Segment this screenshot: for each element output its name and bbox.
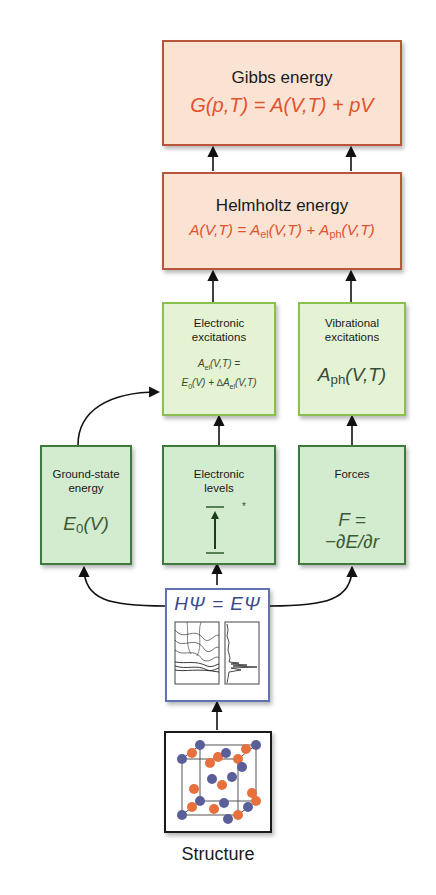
band-structure-and-dos-plot: [167, 620, 267, 690]
helmholtz-eq-el-subscript: el: [260, 228, 268, 240]
electronic-excitations-box: Electronic excitations Ael(V,T) = E0(V) …: [162, 302, 276, 416]
helmholtz-eq-part: (V,T) + A: [269, 221, 330, 238]
eq-subscript: ph: [331, 372, 346, 387]
eq-part: (V,T): [345, 364, 386, 385]
gibbs-energy-box: Gibbs energy G(p,T) = A(V,T) + pV: [162, 40, 402, 146]
electronic-excitations-equation: Ael(V,T) = E0(V) + ∆Ael(V,T): [164, 356, 274, 394]
vibrational-excitations-title-line2: excitations: [300, 330, 404, 344]
ground-state-title-line1: Ground-state: [42, 467, 130, 481]
helmholtz-eq-part: A(V,T) = A: [189, 221, 260, 238]
vibrational-excitations-equation: Aph(V,T): [300, 364, 404, 387]
ground-state-equation: E0(V): [42, 513, 130, 536]
ground-state-title: Ground-state energy: [42, 467, 130, 495]
band-structure-plot: [175, 622, 219, 684]
crystal-structure-box: [164, 731, 272, 833]
arrow-ground-state-to-electronic-excitations: [78, 392, 158, 445]
eq-part: (V) + ∆A: [192, 377, 230, 388]
ground-state-title-line2: energy: [42, 481, 130, 495]
arrow-schrodinger-to-forces: [270, 568, 352, 606]
helmholtz-eq-part: (V,T): [342, 221, 375, 238]
excited-marker: *: [242, 501, 246, 512]
gibbs-title: Gibbs energy: [164, 68, 400, 88]
helmholtz-eq-ph-subscript: ph: [329, 228, 341, 240]
forces-eq-line1: F =: [300, 509, 404, 531]
gibbs-equation: G(p,T) = A(V,T) + pV: [164, 94, 400, 117]
density-of-states-plot: [225, 622, 259, 684]
gibbs-equation-lhs: G(p,T): [190, 94, 248, 116]
forces-title: Forces: [300, 467, 404, 481]
eq-part: (V): [83, 513, 108, 534]
atoms: [177, 740, 261, 824]
arrow-schrodinger-to-ground-state: [84, 568, 165, 606]
helmholtz-energy-box: Helmholtz energy A(V,T) = Ael(V,T) + Aph…: [162, 172, 402, 270]
vibrational-excitations-title-line1: Vibrational: [300, 316, 404, 330]
eq-part: (V,T): [235, 377, 256, 388]
eq-part: E: [63, 513, 76, 534]
forces-eq-line2: −∂E/∂r: [300, 531, 404, 553]
helmholtz-equation: A(V,T) = Ael(V,T) + Aph(V,T): [164, 221, 400, 240]
ground-state-energy-box: Ground-state energy E0(V): [40, 445, 132, 565]
electronic-excitations-title: Electronic excitations: [164, 316, 274, 344]
electronic-levels-title-line2: levels: [164, 481, 274, 495]
electronic-levels-title: Electronic levels: [164, 467, 274, 495]
vibrational-excitations-title: Vibrational excitations: [300, 316, 404, 344]
schrodinger-equation: HΨ = EΨ: [167, 593, 268, 615]
eq-part: A: [198, 358, 205, 369]
eq-part: (V,T) =: [210, 358, 240, 369]
electronic-levels-title-line1: Electronic: [164, 467, 274, 481]
forces-box: Forces F = −∂E/∂r: [298, 445, 406, 565]
structure-label: Structure: [164, 844, 272, 865]
schrodinger-equation-box: HΨ = EΨ: [165, 588, 270, 702]
forces-equation: F = −∂E/∂r: [300, 509, 404, 553]
transition-arrowhead: [211, 511, 219, 519]
electronic-levels-box: Electronic levels *: [162, 445, 276, 565]
vibrational-excitations-box: Vibrational excitations Aph(V,T): [298, 302, 406, 416]
electronic-excitations-title-line2: excitations: [164, 330, 274, 344]
energy-level-diagram-icon: [164, 501, 274, 561]
gibbs-equation-rhs: = A(V,T) + pV: [248, 94, 374, 116]
helmholtz-title: Helmholtz energy: [164, 196, 400, 216]
electronic-excitations-title-line1: Electronic: [164, 316, 274, 330]
eq-part: A: [318, 364, 331, 385]
crystal-structure-icon: [166, 733, 270, 831]
